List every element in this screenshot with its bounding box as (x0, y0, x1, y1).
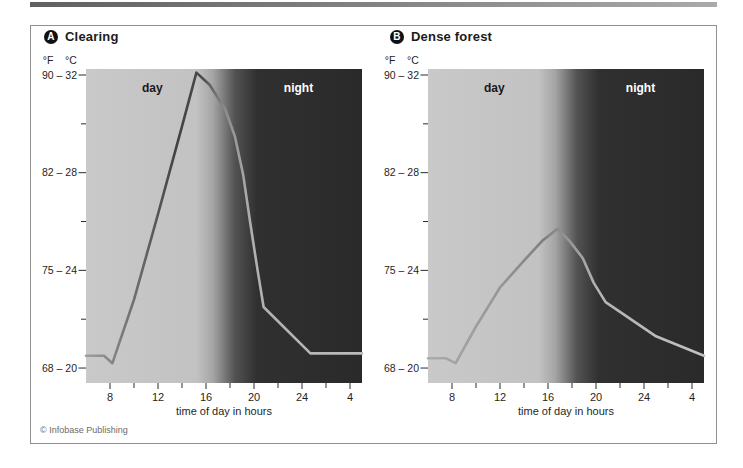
night-zone-label: night (284, 81, 313, 95)
day-night-background (86, 69, 362, 383)
x-tick-label: 8 (449, 391, 455, 403)
y-tick-label: 75 – 24 (384, 264, 419, 276)
x-tick-label: 16 (542, 391, 554, 403)
y-tick-label: 75 – 24 (42, 264, 77, 276)
x-axis-title: time of day in hours (176, 405, 272, 417)
y-tick-label: 82 – 28 (42, 166, 77, 178)
y-tick-label: 68 – 20 (42, 362, 77, 374)
x-axis-title: time of day in hours (518, 405, 614, 417)
y-axis-unit-fahrenheit: °F (43, 54, 54, 66)
x-tick-label: 4 (347, 391, 353, 403)
panel-a-title-label: Clearing (65, 29, 119, 44)
y-tick-label: 68 – 20 (384, 362, 419, 374)
x-tick-label: 24 (638, 391, 650, 403)
top-rule-bar (30, 2, 717, 7)
x-tick-label: 12 (152, 391, 164, 403)
y-tick-label: 90 – 32 (384, 69, 419, 81)
panel-b-title: B Dense forest (390, 29, 492, 44)
x-tick-label: 12 (494, 391, 506, 403)
y-axis-unit-celsius: °C (65, 54, 77, 66)
y-tick-label: 82 – 28 (384, 166, 419, 178)
day-zone-label: day (142, 81, 163, 95)
figure-canvas: A Clearing B Dense forest daynight°F°C90… (0, 0, 743, 468)
panel-b-letter-badge: B (390, 30, 404, 44)
day-zone-label: day (484, 81, 505, 95)
y-axis-unit-celsius: °C (407, 54, 419, 66)
y-axis-unit-fahrenheit: °F (385, 54, 396, 66)
panel-a-letter-badge: A (44, 30, 58, 44)
dense-forest-temperature-chart: daynight°F°C90 – 3282 – 2875 – 2468 – 20… (380, 48, 714, 424)
x-tick-label: 20 (248, 391, 260, 403)
night-zone-label: night (626, 81, 655, 95)
y-tick-label: 90 – 32 (42, 69, 77, 81)
x-tick-label: 16 (200, 391, 212, 403)
panel-b-title-label: Dense forest (411, 29, 492, 44)
x-tick-label: 8 (107, 391, 113, 403)
copyright-notice: © Infobase Publishing (40, 425, 128, 435)
panel-a-title: A Clearing (44, 29, 119, 44)
clearing-temperature-chart: daynight°F°C90 – 3282 – 2875 – 2468 – 20… (38, 48, 372, 424)
x-tick-label: 24 (296, 391, 308, 403)
x-tick-label: 20 (590, 391, 602, 403)
x-tick-label: 4 (689, 391, 695, 403)
